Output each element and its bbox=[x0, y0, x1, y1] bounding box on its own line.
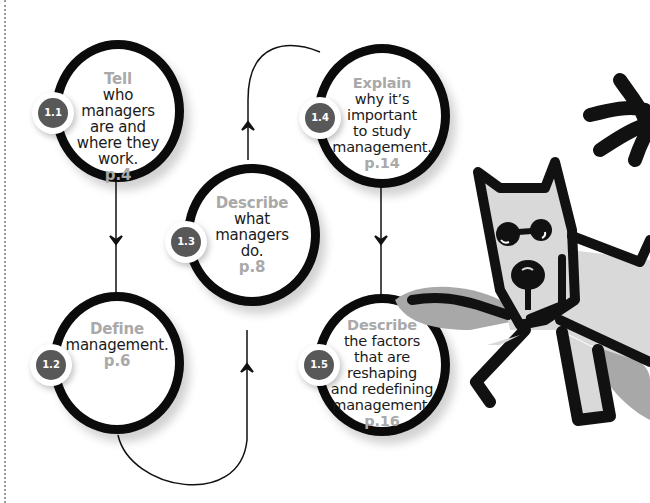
cartoon-dog-illustration bbox=[0, 0, 650, 503]
dog-nose bbox=[511, 260, 545, 290]
dog-eye-right bbox=[530, 219, 552, 241]
dog-glasses-bridge bbox=[518, 231, 532, 232]
paw-icon bbox=[590, 80, 650, 160]
dog-front-leg bbox=[476, 330, 525, 402]
